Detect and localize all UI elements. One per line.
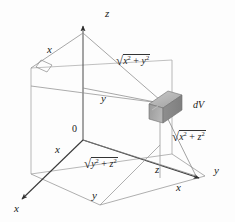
- radical-xy-exp2: 2: [146, 54, 149, 61]
- edge-label-x-left: x: [55, 144, 60, 155]
- volume-element-box: [149, 91, 182, 123]
- edge-label-y-bottom: y: [92, 190, 97, 201]
- right-angle-marker: [36, 60, 52, 72]
- radical-xz-operator: +: [187, 131, 198, 142]
- radical-xy-operator: +: [131, 55, 142, 66]
- coordinate-diagram-figure: z y x 0 x y x y z x dV √x2 + y2 √x2 + z2…: [0, 0, 235, 222]
- y-axis-label: y: [214, 165, 219, 176]
- radical-yz-operator: +: [99, 158, 110, 169]
- origin-label: 0: [72, 124, 77, 134]
- radical-xz-exp2: 2: [201, 130, 204, 137]
- edge-label-x-bottom-right: x: [176, 182, 181, 193]
- radical-yz-exp2: 2: [113, 157, 116, 164]
- z-axis-label: z: [105, 8, 109, 19]
- diagram-canvas: [0, 0, 235, 222]
- edge-label-z-right: z: [155, 164, 159, 175]
- edge-label-x-top: x: [47, 44, 52, 55]
- edge-label-y-middle: y: [101, 93, 106, 104]
- x-axis-label: x: [14, 203, 19, 214]
- radical-sqrt-x2-plus-z2: √x2 + z2: [172, 130, 206, 143]
- radical-sqrt-y2-plus-z2: √y2 + z2: [84, 157, 118, 170]
- base-plane-edges: [31, 154, 205, 205]
- radical-sqrt-x2-plus-y2: √x2 + y2: [116, 54, 150, 67]
- volume-element-label: dV: [193, 100, 204, 110]
- segment-origin-to-dv: [31, 86, 160, 103]
